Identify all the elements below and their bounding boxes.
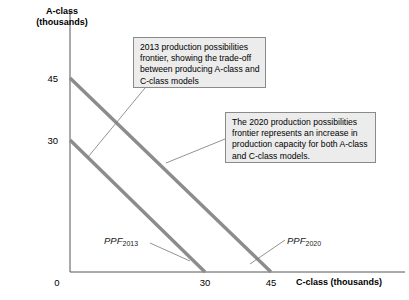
ppf-2013-line xyxy=(70,140,205,272)
x-axis-title: C-class (thousands) xyxy=(296,277,382,288)
y-axis-title-line1: A-class xyxy=(46,6,78,16)
ppf-2013-label-subscript: 2013 xyxy=(122,240,138,247)
ppf-2020-series-label: PPF2020 xyxy=(287,235,321,246)
ppf-2020-label-text: PPF xyxy=(287,235,305,246)
ppf-2020-line xyxy=(70,78,271,272)
callout-2020-leader xyxy=(166,139,225,163)
ppf-2013-label-text: PPF xyxy=(104,235,122,246)
ppf-chart-figure: A-class (thousands) C-class (thousands) … xyxy=(0,0,409,300)
annotation-callout-2020: The 2020 production possibilities fronti… xyxy=(225,112,376,163)
annotation-callout-2013: 2013 production possibilities frontier, … xyxy=(133,37,266,88)
y-tick-label-30: 30 xyxy=(36,135,58,146)
x-tick-label-30: 30 xyxy=(194,277,216,288)
x-tick-label-0: 0 xyxy=(50,277,64,288)
y-tick-label-45: 45 xyxy=(36,73,58,84)
x-tick-label-45: 45 xyxy=(260,277,282,288)
callout-2013-leader xyxy=(88,88,145,157)
y-axis-title: A-class (thousands) xyxy=(2,6,122,28)
ppf-2020-label-subscript: 2020 xyxy=(305,240,321,247)
y-axis-title-line2: (thousands) xyxy=(36,17,88,27)
ppf-2020-label-leader xyxy=(250,240,285,264)
ppf-2013-series-label: PPF2013 xyxy=(104,235,138,246)
